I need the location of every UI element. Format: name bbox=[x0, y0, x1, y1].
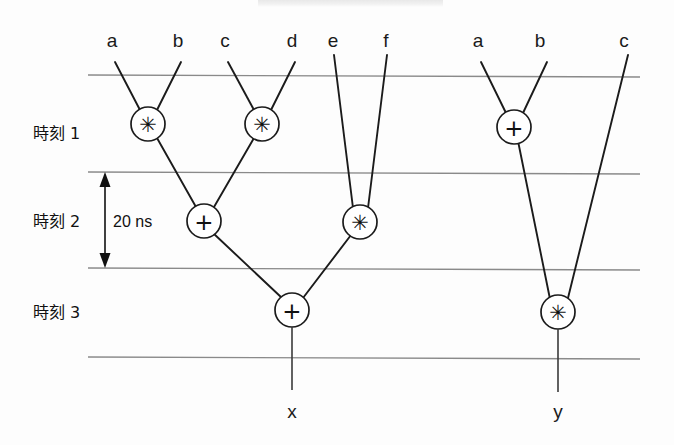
timeline-line-0 bbox=[88, 75, 640, 77]
input-label-e: e bbox=[328, 30, 339, 51]
timeline-line-1 bbox=[88, 172, 640, 174]
measurement-label: 20 ns bbox=[113, 213, 152, 230]
time-row-labels: 時刻 1 時刻 2 時刻 3 bbox=[33, 124, 80, 322]
input-label-b-left: b bbox=[173, 30, 184, 51]
edge-a-right-to-add bbox=[481, 62, 506, 113]
diagram-canvas: ✳ ✳ + + ✳ + bbox=[0, 0, 674, 445]
operator-node-mul-cd[interactable]: ✳ bbox=[245, 107, 279, 141]
output-label-x: x bbox=[287, 401, 297, 422]
measurement-arrowhead-up bbox=[100, 172, 111, 187]
operator-node-mul-ab[interactable]: ✳ bbox=[131, 107, 165, 141]
edge-add-right-to-mul-final bbox=[518, 141, 550, 299]
input-label-a-left: a bbox=[107, 30, 118, 51]
operator-glyph: + bbox=[194, 209, 213, 235]
timeline-line-2 bbox=[88, 268, 640, 270]
input-label-c-right: c bbox=[619, 30, 629, 51]
input-label-d-left: d bbox=[287, 30, 298, 51]
input-label-a-right: a bbox=[473, 30, 484, 51]
edge-e-to-mul-ef bbox=[334, 55, 353, 208]
input-labels: a b c d e f a b c bbox=[107, 30, 629, 51]
operator-glyph: + bbox=[504, 115, 523, 141]
input-label-c-left: c bbox=[220, 30, 230, 51]
edge-mul-ef-to-add-final bbox=[303, 235, 351, 298]
operator-glyph: ✳ bbox=[253, 113, 271, 137]
operator-glyph: ✳ bbox=[139, 113, 157, 137]
edge-d-to-mul-cd bbox=[271, 62, 295, 110]
measurement-annotation: 20 ns bbox=[100, 172, 153, 268]
operator-node-add-final[interactable]: + bbox=[275, 293, 309, 327]
edge-b-right-to-add bbox=[523, 62, 547, 113]
operator-node-mul-ef[interactable]: ✳ bbox=[343, 205, 377, 239]
operator-nodes: ✳ ✳ + + ✳ + bbox=[131, 107, 575, 329]
input-label-b-right: b bbox=[535, 30, 546, 51]
operator-glyph: ✳ bbox=[351, 211, 369, 235]
time-row-label-3: 時刻 3 bbox=[33, 303, 80, 322]
input-edges bbox=[115, 55, 628, 298]
operator-glyph: + bbox=[282, 298, 301, 324]
time-row-label-1: 時刻 1 bbox=[33, 124, 80, 143]
operator-node-add-right[interactable]: + bbox=[497, 110, 531, 144]
edge-a-to-mul-ab bbox=[115, 62, 140, 110]
operator-node-mul-final[interactable]: ✳ bbox=[541, 295, 575, 329]
edge-add-mid-to-add-final bbox=[213, 233, 282, 298]
operation-scheduling-diagram: ✳ ✳ + + ✳ + bbox=[0, 0, 674, 445]
measurement-arrowhead-down bbox=[100, 253, 111, 268]
input-label-f: f bbox=[383, 30, 389, 51]
output-label-y: y bbox=[553, 401, 563, 422]
edge-c-to-mul-cd bbox=[228, 62, 254, 110]
edge-b-to-mul-ab bbox=[157, 62, 181, 110]
operator-glyph: ✳ bbox=[549, 301, 567, 325]
output-edges bbox=[292, 327, 558, 392]
edge-f-to-mul-ef bbox=[368, 55, 387, 208]
edge-c-right-to-mul-final bbox=[568, 55, 628, 298]
operator-node-add-mid[interactable]: + bbox=[187, 204, 221, 238]
time-row-label-2: 時刻 2 bbox=[33, 212, 80, 231]
output-labels: x y bbox=[287, 401, 563, 422]
